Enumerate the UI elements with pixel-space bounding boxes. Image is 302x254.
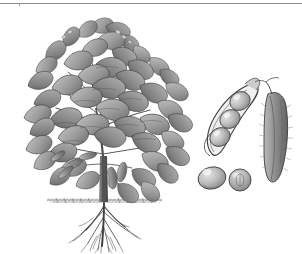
- engraving-svg: [0, 6, 302, 254]
- horizontal-rule: [0, 3, 302, 4]
- botanical-figure: Soybean plant botanical engraving: [0, 0, 302, 254]
- illustration-plate: [0, 6, 302, 254]
